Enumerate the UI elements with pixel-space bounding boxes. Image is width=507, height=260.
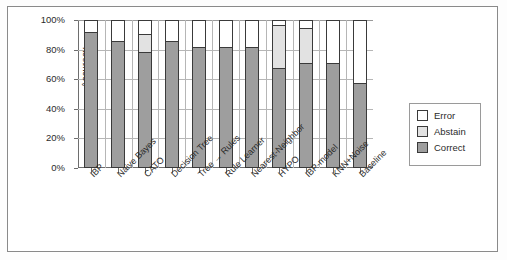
stacked-bar <box>111 20 125 168</box>
gridline-vertical <box>185 20 186 168</box>
bar-column <box>111 20 125 168</box>
legend-item: Error <box>417 110 480 121</box>
gridline-vertical <box>239 20 240 168</box>
bar-segment-abstain <box>300 28 312 64</box>
stacked-bar <box>299 20 313 168</box>
gridline-vertical <box>293 20 294 168</box>
bar-segment-correct <box>166 41 178 167</box>
y-tick-mark <box>74 109 78 110</box>
gridline-vertical <box>158 20 159 168</box>
legend-item: Correct <box>417 142 480 153</box>
bar-segment-correct <box>85 32 97 167</box>
y-tick-label: 20% <box>23 132 65 143</box>
y-tick-mark <box>74 138 78 139</box>
y-tick-label: 80% <box>23 44 65 55</box>
bar-column <box>165 20 179 168</box>
y-tick-label: 60% <box>23 73 65 84</box>
legend-label: Abstain <box>434 126 466 137</box>
chart-legend: ErrorAbstainCorrect <box>409 103 481 166</box>
y-tick-label: 0% <box>23 162 65 173</box>
y-tick-mark <box>74 20 78 21</box>
bar-column <box>299 20 313 168</box>
y-tick-label: 40% <box>23 103 65 114</box>
bar-segment-correct <box>112 41 124 167</box>
y-tick-label: 100% <box>23 14 65 25</box>
bar-column <box>84 20 98 168</box>
legend-swatch-icon <box>417 126 428 137</box>
stacked-bar <box>84 20 98 168</box>
legend-label: Correct <box>434 142 465 153</box>
y-tick-mark <box>74 50 78 51</box>
gridline-vertical <box>132 20 133 168</box>
plot-area: Accuracy 100%80%60%40%20%0% IBPNaive Bay… <box>78 20 373 168</box>
bar-segment-abstain <box>139 34 151 52</box>
gridline-vertical <box>319 20 320 168</box>
bar-segment-correct <box>300 63 312 167</box>
legend-label: Error <box>434 110 455 121</box>
gridline-vertical <box>105 20 106 168</box>
gridline-vertical <box>266 20 267 168</box>
stacked-bar <box>165 20 179 168</box>
bar-segment-abstain <box>273 25 285 68</box>
y-tick-mark <box>74 79 78 80</box>
legend-item: Abstain <box>417 126 480 137</box>
legend-swatch-icon <box>417 110 428 121</box>
y-tick-mark <box>74 168 78 169</box>
gridline-vertical <box>212 20 213 168</box>
legend-swatch-icon <box>417 142 428 153</box>
gridline-vertical <box>346 20 347 168</box>
chart-figure: Accuracy 100%80%60%40%20%0% IBPNaive Bay… <box>0 0 507 260</box>
